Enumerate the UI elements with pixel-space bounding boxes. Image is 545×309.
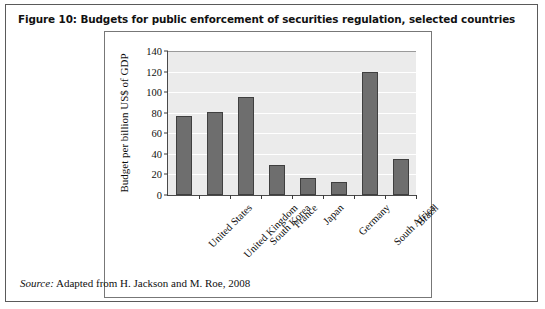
plot-area: Budget per billion US$ of GDP 0204060801… bbox=[167, 51, 416, 196]
y-tick-mark bbox=[164, 92, 168, 93]
y-tick-mark bbox=[164, 133, 168, 134]
bar bbox=[393, 159, 409, 195]
y-tick-label: 20 bbox=[152, 169, 163, 180]
y-tick-label: 120 bbox=[146, 66, 162, 77]
bar bbox=[331, 182, 347, 195]
bar bbox=[362, 72, 378, 195]
x-tick-mark bbox=[292, 195, 293, 199]
y-tick-mark bbox=[164, 153, 168, 154]
y-tick-label: 40 bbox=[152, 148, 163, 159]
y-tick-mark bbox=[164, 71, 168, 72]
x-tick-mark bbox=[323, 195, 324, 199]
gridline bbox=[168, 92, 416, 93]
y-tick-label: 60 bbox=[152, 128, 163, 139]
x-tick-mark bbox=[261, 195, 262, 199]
chart-container: Budget per billion US$ of GDP 0204060801… bbox=[104, 31, 432, 298]
gridline bbox=[168, 113, 416, 114]
source-text: Adapted from H. Jackson and M. Roe, 2008 bbox=[54, 277, 250, 289]
y-tick-mark bbox=[164, 51, 168, 52]
gridline bbox=[168, 174, 416, 175]
x-tick-mark bbox=[385, 195, 386, 199]
x-tick-label: Germany bbox=[356, 202, 391, 237]
bar bbox=[300, 178, 316, 195]
x-tick-label: Brazil bbox=[414, 202, 440, 228]
x-tick-mark bbox=[354, 195, 355, 199]
x-tick-mark bbox=[230, 195, 231, 199]
gridline bbox=[168, 133, 416, 134]
y-tick-label: 80 bbox=[152, 107, 163, 118]
y-tick-label: 140 bbox=[146, 46, 162, 57]
source-note: Source: Adapted from H. Jackson and M. R… bbox=[20, 277, 250, 289]
x-tick-label: United States bbox=[206, 202, 254, 250]
x-tick-label: Japan bbox=[321, 202, 346, 227]
bar bbox=[269, 165, 285, 195]
y-tick-mark bbox=[164, 174, 168, 175]
gridline bbox=[168, 51, 416, 52]
y-tick-mark bbox=[164, 195, 168, 196]
y-tick-mark bbox=[164, 112, 168, 113]
gridline bbox=[168, 154, 416, 155]
bar bbox=[207, 112, 223, 195]
y-tick-label: 0 bbox=[157, 190, 162, 201]
x-tick-mark bbox=[416, 195, 417, 199]
figure-caption: Figure 10: Budgets for public enforcemen… bbox=[18, 13, 523, 25]
bar bbox=[176, 116, 192, 195]
bar bbox=[238, 97, 254, 195]
y-axis-title: Budget per billion US$ of GDP bbox=[118, 53, 130, 192]
figure-frame: Figure 10: Budgets for public enforcemen… bbox=[5, 4, 538, 302]
gridline bbox=[168, 72, 416, 73]
x-tick-mark bbox=[199, 195, 200, 199]
source-label: Source: bbox=[20, 277, 54, 289]
y-tick-label: 100 bbox=[146, 87, 162, 98]
